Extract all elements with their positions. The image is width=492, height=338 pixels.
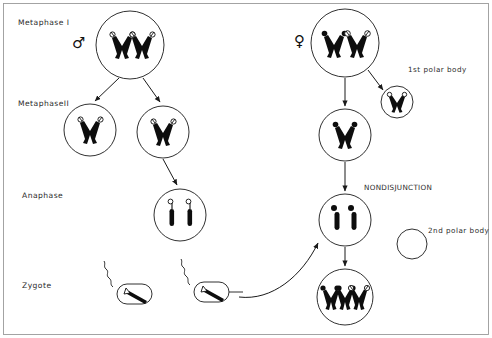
sperm-left [104, 261, 152, 304]
arrow-male-meiosis1-left [95, 78, 119, 101]
female-symbol-icon: ♀ [294, 32, 305, 50]
female-nondisjunction-cell [319, 194, 371, 246]
cell-membrane [64, 104, 116, 156]
sperm-tail [181, 259, 190, 285]
cell-membrane [137, 106, 189, 158]
stage-label-metaphase-1: Metaphase I [18, 18, 69, 27]
male-anaphase-cell [154, 189, 206, 241]
male-symbol-icon: ♂ [72, 34, 85, 52]
male-primary-spermatocyte [96, 11, 164, 79]
annotation-nondisjunction: NONDISJUNCTION [364, 183, 432, 192]
annotation-second-polar-body: 2nd polar body [428, 226, 490, 235]
cell-membrane [154, 189, 206, 241]
female-primary-oocyte [311, 9, 379, 77]
cell-membrane [319, 109, 371, 161]
arrow-group [95, 70, 383, 297]
cell-membrane [96, 11, 164, 79]
female-secondary-oocyte [319, 109, 371, 161]
male-secondary-spermatocyte-left [64, 104, 116, 156]
cell-membrane [319, 194, 371, 246]
zygote-cell [317, 269, 373, 325]
arrow-female-polar-body [368, 70, 383, 90]
stage-label-metaphase-2: MetaphaseII [18, 99, 69, 108]
meiosis-nondisjunction-diagram: Metaphase I MetaphaseII Anaphase Zygote … [0, 0, 492, 338]
cell-membrane [397, 229, 427, 259]
arrow-male-meiosis1-right [143, 78, 160, 102]
figure-border [4, 4, 489, 335]
stage-label-anaphase: Anaphase [22, 191, 63, 200]
stage-label-zygote: Zygote [22, 281, 52, 290]
annotation-first-polar-body: 1st polar body [408, 65, 467, 74]
arrow-male-meiosis2 [163, 159, 177, 185]
diagram-canvas: Metaphase I MetaphaseII Anaphase Zygote … [0, 0, 492, 338]
sperm-tail [104, 261, 113, 287]
first-polar-body-cell [381, 86, 413, 118]
second-polar-body-cell [397, 229, 427, 259]
male-secondary-spermatocyte-right [137, 106, 189, 158]
cell-membrane [311, 9, 379, 77]
sperm-right [181, 259, 243, 302]
cell-membrane [381, 86, 413, 118]
arrow-fertilization [239, 243, 318, 297]
